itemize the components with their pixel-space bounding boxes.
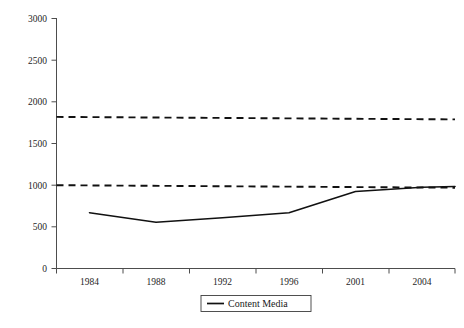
y-tick-label-0: 0 — [42, 264, 47, 274]
upper-reference-dashed-line — [57, 117, 456, 120]
x-tick-label-1984: 1984 — [80, 277, 99, 287]
chart-legend: Content Media — [201, 296, 311, 312]
x-tick-label-1988: 1988 — [147, 277, 166, 287]
x-tick-label-1996: 1996 — [280, 277, 299, 287]
x-axis: 1984 1988 1992 1996 2001 2004 — [57, 269, 456, 288]
x-tick-label-2004: 2004 — [413, 277, 432, 287]
y-axis: 3000 2500 2000 1500 1000 500 0 — [28, 14, 57, 274]
y-tick-label-1000: 1000 — [28, 181, 47, 191]
content-media-series-line — [90, 187, 456, 223]
y-tick-label-3000: 3000 — [28, 14, 47, 24]
y-tick-label-500: 500 — [33, 222, 48, 232]
y-tick-label-2000: 2000 — [28, 97, 47, 107]
y-tick-label-2500: 2500 — [28, 56, 47, 66]
figure-caption — [0, 319, 464, 328]
lower-reference-dashed-line — [57, 185, 456, 188]
y-tick-label-1500: 1500 — [28, 139, 47, 149]
chart-container: 3000 2500 2000 1500 1000 500 0 1984 1988… — [0, 0, 464, 328]
legend-label-content-media: Content Media — [228, 298, 288, 309]
x-tick-label-2001: 2001 — [346, 277, 365, 287]
x-tick-label-1992: 1992 — [213, 277, 232, 287]
line-chart: 3000 2500 2000 1500 1000 500 0 1984 1988… — [0, 0, 464, 328]
